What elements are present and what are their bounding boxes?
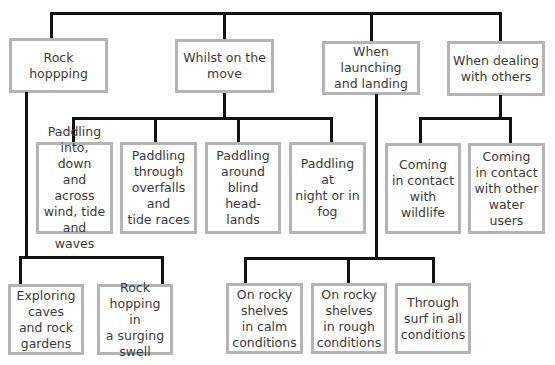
node-surf: Through surf in all conditions: [395, 283, 471, 354]
node-exploring-caves: Exploring caves and rock gardens: [8, 284, 84, 355]
connector: [244, 257, 247, 284]
node-paddling-wind-tide: Paddling into, down and across wind, tid…: [36, 142, 113, 234]
connector: [50, 12, 502, 15]
connector: [370, 12, 373, 41]
connector: [499, 95, 502, 119]
connector: [244, 257, 435, 260]
node-rocky-rough: On rocky shelves in rough conditions: [311, 283, 387, 354]
connector: [19, 256, 164, 259]
connector: [50, 12, 53, 39]
connector: [223, 12, 226, 39]
connector: [419, 117, 422, 144]
node-contact-wildlife: Coming in contact with wildlife: [385, 143, 461, 234]
node-whilst-on-move: Whilst on the move: [175, 39, 274, 93]
connector: [347, 257, 350, 284]
node-contact-water-users: Coming in contact with other water users: [468, 143, 545, 234]
connector: [237, 117, 240, 143]
connector: [72, 117, 333, 120]
node-rock-hopping-swell: Rock hopping in a surging swell: [97, 284, 173, 355]
node-dealing-others: When dealing with others: [447, 41, 545, 96]
connector: [509, 117, 512, 144]
connector: [375, 94, 378, 260]
node-paddling-night-fog: Paddling at night or in fog: [289, 142, 366, 234]
node-rocky-calm: On rocky shelves in calm conditions: [226, 283, 303, 354]
connector: [330, 117, 333, 143]
connector: [25, 92, 28, 258]
connector: [419, 117, 512, 120]
connector: [223, 93, 226, 119]
connector: [432, 257, 435, 284]
node-paddling-headlands: Paddling around blind head- lands: [205, 142, 281, 234]
node-launching-landing: When launching and landing: [322, 41, 420, 95]
node-paddling-overfalls: Paddling through overfalls and tide race…: [120, 142, 197, 234]
connector: [154, 117, 157, 143]
connector: [499, 12, 502, 41]
node-rock-hopping: Rock hoppping: [9, 38, 108, 93]
connector: [19, 256, 22, 285]
